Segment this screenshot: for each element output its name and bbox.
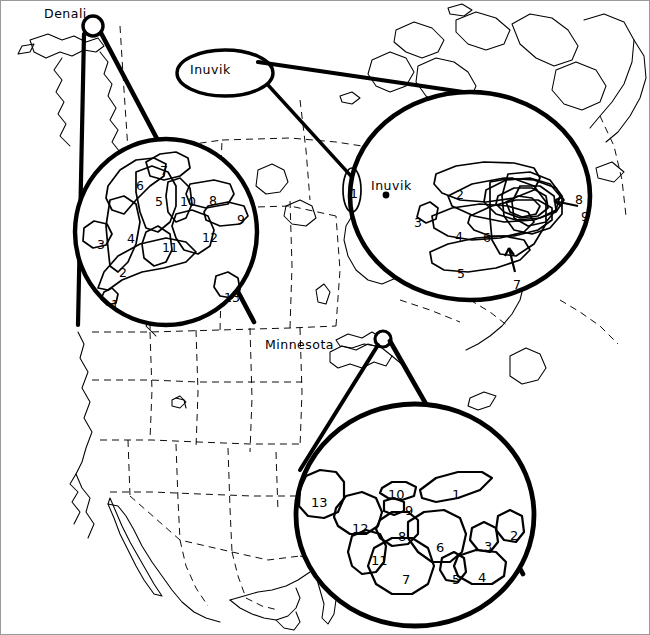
minnesota-region-label-4: 4 (478, 570, 486, 585)
denali-region-label-9: 9 (237, 212, 245, 227)
denali-region-label-3: 3 (97, 237, 105, 252)
minnesota-region-label-1: 1 (452, 487, 460, 502)
label-inuvik-inset: Inuvik (371, 178, 412, 193)
minnesota-region-label-2: 2 (510, 528, 518, 543)
minnesota-inset-layer (0, 0, 650, 635)
minnesota-region-label-3: 3 (484, 539, 492, 554)
inuvik-region-label-6: 6 (483, 230, 491, 245)
inuvik-region-label-7: 7 (513, 277, 521, 292)
denali-region-label-7: 7 (160, 163, 168, 178)
minnesota-region-label-7: 7 (402, 572, 410, 587)
label-inuvik-small: Inuvik (190, 62, 231, 77)
denali-region-label-8: 8 (209, 193, 217, 208)
denali-region-label-13: 13 (224, 290, 240, 305)
minnesota-region-label-13: 13 (311, 495, 328, 510)
minnesota-region-label-5: 5 (452, 572, 460, 587)
minnesota-region-label-10: 10 (388, 487, 405, 502)
denali-region-label-10: 10 (180, 194, 196, 209)
denali-region-label-2: 2 (119, 265, 127, 280)
minnesota-region-label-6: 6 (436, 540, 444, 555)
minnesota-region-label-8: 8 (398, 529, 406, 544)
figure-root: Denali Inuvik Inuvik Minnesota 1 2 3 4 5… (0, 0, 650, 635)
inuvik-region-label-2: 2 (456, 187, 464, 202)
minnesota-region-label-12: 12 (352, 521, 369, 536)
label-denali: Denali (44, 6, 87, 21)
inuvik-region-label-5: 5 (457, 266, 465, 281)
denali-region-label-4: 4 (127, 231, 135, 246)
inuvik-region-label-8: 8 (575, 192, 583, 207)
label-minnesota: Minnesota (265, 337, 334, 352)
denali-region-label-1: 1 (111, 297, 119, 312)
inuvik-region-label-9: 9 (581, 209, 589, 224)
minnesota-region-label-9: 9 (405, 503, 413, 518)
inuvik-region-label-3: 3 (414, 215, 422, 230)
denali-region-label-5: 5 (155, 194, 163, 209)
denali-region-label-6: 6 (136, 178, 144, 193)
denali-region-label-12: 12 (202, 230, 218, 245)
inuvik-region-label-1: 1 (350, 186, 358, 201)
denali-region-label-11: 11 (162, 240, 178, 255)
inuvik-region-label-4: 4 (455, 229, 463, 244)
minnesota-region-label-11: 11 (371, 553, 388, 568)
